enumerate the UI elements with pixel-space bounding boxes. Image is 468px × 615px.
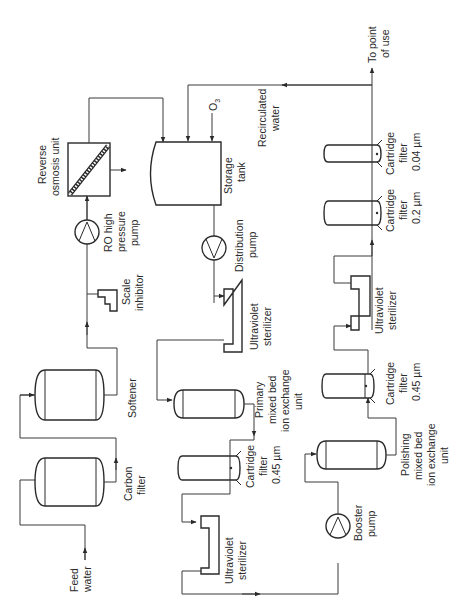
process-flow-diagram: Feed water Carbon filter Softener Scale … (0, 0, 468, 615)
label-feed-water: Feed water (68, 565, 93, 593)
label-uv-sterilizer-1: Ultraviolet sterilizer (248, 300, 273, 350)
label-cartridge-045-a: Cartridge filter 0.45 µm (244, 442, 282, 488)
label-primary-ix: Primary mixed bed ion exchange unit (253, 367, 304, 432)
cartridge-filter-045-b (322, 369, 375, 403)
label-polishing-ix: Polishing mixed bed ion exchange unit (399, 421, 450, 486)
cartridge-filter-004 (324, 140, 382, 167)
label-softener: Softener (126, 378, 138, 418)
label-ro-unit: Reverse osmosis unit (36, 138, 61, 196)
carbon-filter-vessel (35, 458, 104, 506)
label-cartridge-02: Cartridge filter 0.2 µm (384, 186, 422, 232)
label-scale-inhibitor: Scale inhibitor (120, 274, 145, 311)
label-ro-pump: RO high pressure pump (102, 208, 140, 252)
label-recirculated-water: Recirculated water (256, 86, 281, 147)
cartridge-filter-02 (324, 196, 382, 230)
label-ozone: O3 (207, 99, 221, 111)
booster-pump-symbol (326, 514, 350, 538)
polishing-ix-vessel (317, 441, 386, 469)
label-distribution-pump: Distribution pump (233, 217, 258, 272)
uv-sterilizer-2 (201, 516, 219, 574)
uv-sterilizer-3 (351, 276, 370, 330)
ro-pump-symbol (75, 220, 99, 244)
cartridge-filter-045-a (178, 451, 241, 485)
softener-vessel (35, 370, 104, 420)
label-carbon-filter: Carbon filter (122, 464, 147, 501)
storage-tank (151, 142, 222, 205)
primary-ix-vessel (174, 390, 244, 418)
ro-unit (68, 143, 110, 196)
scale-inhibitor-symbol (98, 290, 117, 311)
label-cartridge-004: Cartridge filter 0.04 µm (384, 129, 422, 175)
label-cartridge-045-b: Cartridge filter 0.45 µm (384, 359, 422, 405)
label-booster-pump: Booster pump (352, 502, 377, 541)
label-to-point-of-use: To point of use (366, 23, 391, 63)
cartridge-b-to-uv3-line (334, 326, 368, 374)
label-storage-tank: Storage tank (222, 154, 247, 194)
label-uv-sterilizer-3: Ultraviolet sterilizer (373, 284, 398, 334)
ro-to-storage-line (89, 98, 163, 143)
distribution-pump-symbol (202, 236, 226, 260)
uv-sterilizer-1 (224, 280, 242, 352)
label-uv-sterilizer-2: Ultraviolet sterilizer (223, 534, 248, 584)
